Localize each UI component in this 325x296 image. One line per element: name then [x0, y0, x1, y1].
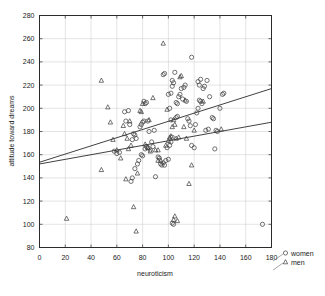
x-tick-label: 80	[139, 254, 147, 261]
marker-men	[165, 107, 169, 111]
x-tick-label: 120	[188, 254, 200, 261]
marker-women	[189, 143, 193, 147]
x-tick-label: 60	[113, 254, 121, 261]
marker-men	[135, 171, 139, 175]
legend-label-women: women	[290, 250, 314, 257]
y-tick-label: 260	[23, 35, 35, 42]
y-tick-label: 240	[23, 58, 35, 65]
y-tick-label: 100	[23, 221, 35, 228]
marker-men	[134, 229, 138, 233]
scatter-plot: 020406080100120140160180 801001201401601…	[0, 0, 325, 296]
marker-women	[153, 175, 157, 179]
chart-figure: 020406080100120140160180 801001201401601…	[0, 0, 325, 296]
marker-men	[99, 167, 103, 171]
legend-marker-men	[283, 260, 287, 264]
marker-women	[175, 114, 179, 118]
marker-men	[121, 123, 125, 127]
marker-men	[175, 218, 179, 222]
x-tick-labels: 020406080100120140160180	[38, 254, 278, 261]
marker-women	[208, 95, 212, 99]
legend: womenmen	[273, 250, 314, 271]
marker-women	[161, 73, 165, 77]
x-tick-label: 0	[38, 254, 42, 261]
marker-men	[178, 75, 182, 79]
marker-women	[133, 167, 137, 171]
x-axis-title: neuroticism	[137, 270, 173, 277]
marker-men	[182, 124, 186, 128]
y-tick-label: 140	[23, 174, 35, 181]
marker-men	[131, 205, 135, 209]
y-tick-label: 280	[23, 12, 35, 19]
marker-men	[118, 156, 122, 160]
marker-women	[222, 91, 226, 95]
x-tick-label: 20	[61, 254, 69, 261]
marker-women	[210, 115, 214, 119]
data-markers	[64, 41, 264, 233]
marker-women	[164, 158, 168, 162]
marker-men	[189, 163, 193, 167]
y-axis-title: attitude toward dreams	[8, 95, 15, 167]
legend-label-men: men	[291, 259, 305, 266]
x-tick-label: 100	[163, 254, 175, 261]
gridlines	[40, 16, 272, 248]
marker-women	[179, 86, 183, 90]
y-tick-labels: 80100120140160180200220240260280	[23, 12, 35, 251]
marker-men	[187, 181, 191, 185]
marker-men	[143, 142, 147, 146]
y-tick-label: 180	[23, 128, 35, 135]
marker-women	[220, 92, 224, 96]
y-tick-label: 160	[23, 151, 35, 158]
marker-men	[151, 95, 155, 99]
y-tick-label: 120	[23, 198, 35, 205]
marker-women	[130, 138, 134, 142]
marker-women	[205, 78, 209, 82]
marker-men	[108, 120, 112, 124]
marker-women	[211, 117, 215, 121]
y-tick-label: 200	[23, 105, 35, 112]
marker-women	[152, 128, 156, 132]
marker-women	[204, 128, 208, 132]
marker-women	[174, 100, 178, 104]
marker-women	[126, 109, 130, 113]
marker-men	[99, 78, 103, 82]
marker-women	[117, 150, 121, 154]
marker-men	[125, 136, 129, 140]
x-tick-label: 40	[87, 254, 95, 261]
marker-men	[161, 41, 165, 45]
marker-women	[213, 147, 217, 151]
marker-women	[144, 100, 148, 104]
marker-women	[188, 124, 192, 128]
marker-women	[189, 55, 193, 59]
marker-women	[162, 71, 166, 75]
marker-women	[173, 70, 177, 74]
y-tick-label: 220	[23, 82, 35, 89]
marker-men	[64, 216, 68, 220]
marker-women	[199, 77, 203, 81]
legend-marker-women	[283, 251, 287, 255]
x-tick-label: 140	[214, 254, 226, 261]
marker-men	[129, 143, 133, 147]
x-tick-label: 160	[240, 254, 252, 261]
marker-women	[175, 102, 179, 106]
marker-men	[219, 127, 223, 131]
marker-men	[139, 109, 143, 113]
marker-women	[169, 91, 173, 95]
marker-men	[124, 177, 128, 181]
marker-women	[206, 127, 210, 131]
marker-men	[173, 122, 177, 126]
y-tick-label: 80	[27, 244, 35, 251]
